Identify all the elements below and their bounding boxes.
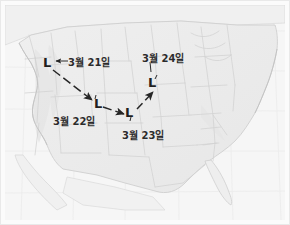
weather-map-screenshot: L L L L 3월 21일 3월 22일 3월 23일 3월 24일 xyxy=(0,0,290,225)
map-plate xyxy=(5,5,285,220)
base-map-graphic xyxy=(5,5,285,220)
